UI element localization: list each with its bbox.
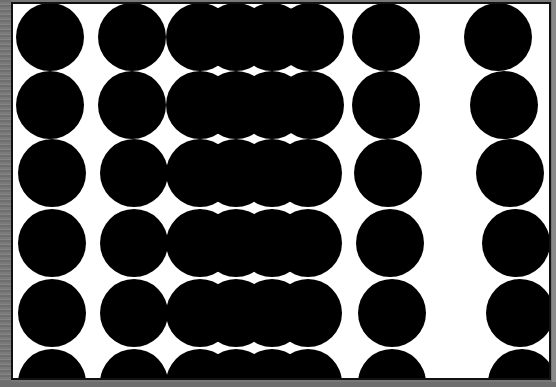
gray-border-bottom <box>0 382 556 387</box>
black-circle <box>98 71 166 139</box>
black-circle <box>482 209 550 277</box>
black-circle <box>274 139 342 207</box>
black-circle <box>16 71 84 139</box>
black-circle <box>354 139 422 207</box>
black-circle <box>100 139 168 207</box>
black-circle <box>18 139 86 207</box>
black-circle <box>100 279 168 347</box>
gray-border-right <box>552 0 556 387</box>
black-circle <box>464 3 532 71</box>
black-circle <box>100 349 168 380</box>
image-stage <box>0 0 556 387</box>
black-circle <box>274 209 342 277</box>
gray-border-left <box>0 0 11 387</box>
black-circle <box>352 71 420 139</box>
black-circle <box>274 279 342 347</box>
black-circle <box>98 3 166 71</box>
black-circle <box>100 209 168 277</box>
black-circle <box>476 139 544 207</box>
black-circle <box>488 349 551 380</box>
circle-pattern <box>11 2 551 380</box>
black-circle <box>356 209 424 277</box>
black-circle <box>486 279 551 347</box>
black-circle <box>18 279 86 347</box>
black-circle <box>470 71 538 139</box>
black-circle <box>352 3 420 71</box>
black-circle <box>358 349 426 380</box>
black-circle <box>276 3 344 71</box>
black-circle <box>358 279 426 347</box>
black-circle <box>276 71 344 139</box>
black-circle <box>16 3 84 71</box>
black-circle <box>18 349 86 380</box>
circle-pattern-canvas <box>11 2 551 380</box>
black-circle <box>18 209 86 277</box>
